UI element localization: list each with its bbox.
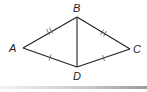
bottom-divider [0,86,147,89]
label-c: C [133,43,141,55]
label-d: D [73,70,81,82]
label-b: B [73,2,80,14]
segment-bc [77,17,130,49]
segment-ab [23,17,77,48]
label-a: A [8,42,16,54]
kite-diagram: B A C D [0,0,147,92]
